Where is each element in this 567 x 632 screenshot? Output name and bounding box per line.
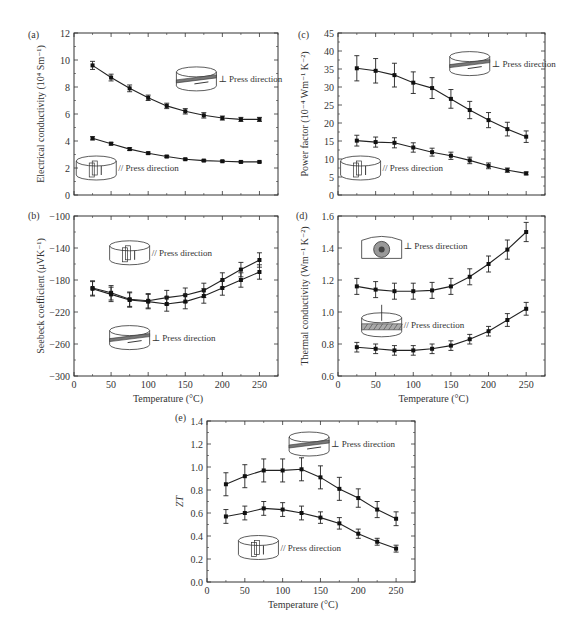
- y-tick-label: 0.2: [191, 554, 204, 565]
- data-point: [430, 150, 434, 154]
- data-point: [487, 262, 491, 266]
- series-0: [354, 56, 528, 143]
- y-axis-title: Thermal conductivity (Wm⁻¹ K⁻²): [299, 226, 311, 365]
- inset-perp: ⊥ Press direction: [176, 67, 282, 91]
- inset-label: ⊥ Press direction: [218, 74, 282, 84]
- y-tick-label: 8: [65, 82, 70, 93]
- x-tick-label: 250: [389, 585, 404, 596]
- y-tick-label: 10: [324, 154, 334, 165]
- inset-label: ⊥ Press direction: [404, 241, 468, 251]
- data-point: [262, 506, 266, 510]
- x-tick-label: 200: [481, 379, 496, 390]
- data-point: [374, 69, 378, 73]
- data-point: [355, 284, 359, 288]
- data-point: [183, 300, 187, 304]
- y-tick-label: 0.6: [191, 508, 204, 519]
- data-point: [202, 294, 206, 298]
- data-point: [430, 86, 434, 90]
- data-point: [487, 118, 491, 122]
- inset-par: // Press direction: [110, 241, 213, 265]
- data-point: [202, 113, 206, 117]
- data-point: [355, 345, 359, 349]
- y-tick-label: 1.6: [322, 211, 335, 222]
- inset-par: // Press direction: [76, 156, 179, 180]
- data-point: [356, 496, 360, 500]
- inset-perp: ⊥ Press direction: [450, 52, 556, 76]
- data-point: [91, 63, 95, 67]
- y-axis-title: Power factor (10⁻⁴ Wm⁻¹ K⁻²): [299, 51, 311, 176]
- data-point: [449, 284, 453, 288]
- x-tick-label: 100: [406, 379, 421, 390]
- inset-label: // Press direction: [404, 320, 465, 330]
- data-point: [109, 292, 113, 296]
- inset-label: // Press direction: [118, 163, 179, 173]
- inset-par: // Press direction: [341, 156, 444, 180]
- data-point: [257, 270, 261, 274]
- data-point: [257, 117, 261, 121]
- inset-perp: ⊥ Press direction: [110, 326, 216, 350]
- y-tick-label: −140: [49, 243, 70, 254]
- data-point: [165, 155, 169, 159]
- inset-hatch: // Press direction: [362, 305, 465, 337]
- data-point: [318, 516, 322, 520]
- data-point: [411, 81, 415, 85]
- data-point: [487, 329, 491, 333]
- data-point: [524, 171, 528, 175]
- data-point: [468, 275, 472, 279]
- data-point: [257, 258, 261, 262]
- x-axis-title: Temperature (°C): [268, 599, 338, 611]
- y-tick-label: 20: [324, 118, 334, 129]
- data-point: [91, 136, 95, 140]
- data-point: [392, 289, 396, 293]
- data-point: [337, 487, 341, 491]
- y-axis-title: ZT: [174, 495, 185, 508]
- data-point: [468, 158, 472, 162]
- data-point: [524, 307, 528, 311]
- data-point: [394, 517, 398, 521]
- y-axis-title: Electrical conductivity (10⁴ Sm⁻¹): [35, 45, 47, 183]
- panel-c: (c)051015202530354045Power factor (10⁻⁴ …: [298, 28, 556, 201]
- data-point: [449, 344, 453, 348]
- panel-letter: (e): [175, 412, 186, 424]
- y-tick-label: 2: [65, 163, 70, 174]
- panel-e: (e)0501001502002500.00.20.40.60.81.01.21…: [174, 412, 415, 611]
- inset-perp: ⊥ Press direction: [289, 432, 395, 456]
- inset-label: // Press direction: [280, 543, 341, 553]
- data-point: [394, 547, 398, 551]
- data-point: [505, 318, 509, 322]
- inset-label: // Press direction: [383, 163, 444, 173]
- panel-letter: (a): [28, 29, 39, 41]
- y-tick-label: 5: [329, 172, 334, 183]
- data-point: [524, 135, 528, 139]
- y-tick-label: 0.4: [191, 531, 204, 542]
- x-axis-title: Temperature (°C): [133, 393, 203, 405]
- y-tick-label: 4: [65, 136, 70, 147]
- data-point: [392, 141, 396, 145]
- data-point: [281, 508, 285, 512]
- x-tick-label: 250: [252, 379, 267, 390]
- data-point: [392, 73, 396, 77]
- data-point: [257, 160, 261, 164]
- y-tick-label: −180: [49, 275, 70, 286]
- data-point: [355, 139, 359, 143]
- data-point: [449, 154, 453, 158]
- data-point: [392, 348, 396, 352]
- data-point: [109, 76, 113, 80]
- plot-frame: [338, 216, 545, 376]
- series-0: [90, 253, 262, 308]
- y-tick-label: 30: [324, 82, 334, 93]
- inset-label: ⊥ Press direction: [492, 59, 556, 69]
- data-point: [468, 337, 472, 341]
- data-point: [524, 230, 528, 234]
- data-point: [224, 514, 228, 518]
- y-tick-label: 0.0: [191, 577, 204, 588]
- y-tick-label: 0.8: [191, 485, 204, 496]
- panel-d: (d)0501001502002500.60.81.01.21.41.6Temp…: [296, 210, 545, 405]
- data-point: [202, 159, 206, 163]
- data-point: [239, 160, 243, 164]
- x-tick-label: 150: [443, 379, 458, 390]
- data-point: [411, 348, 415, 352]
- y-tick-label: 15: [324, 136, 334, 147]
- y-tick-label: 0.8: [322, 339, 335, 350]
- y-tick-label: −300: [49, 371, 70, 382]
